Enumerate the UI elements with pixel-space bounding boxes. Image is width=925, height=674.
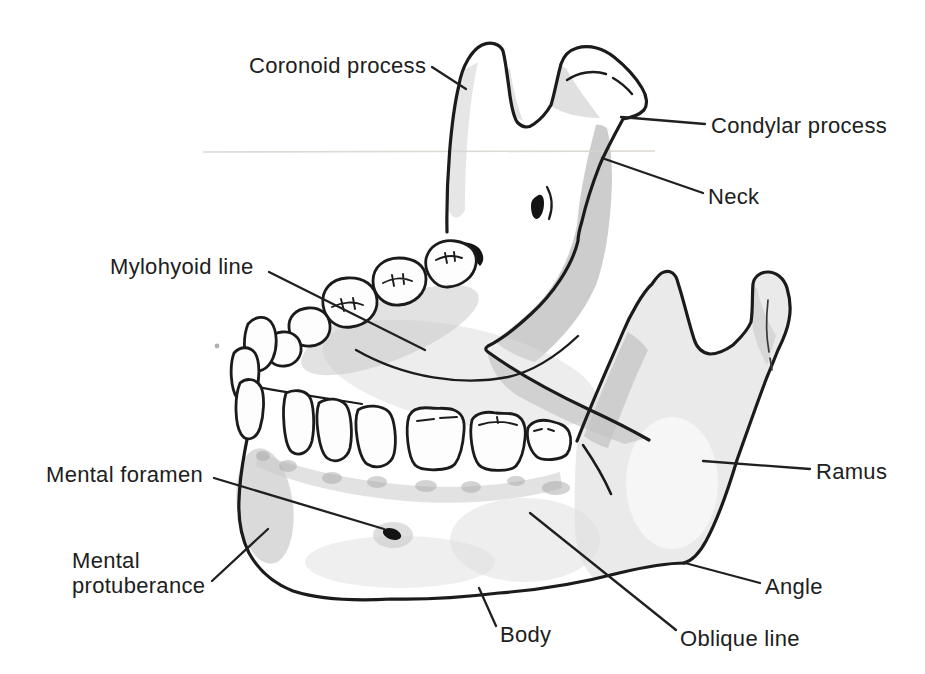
textbook-figure-page: Coronoid process Condylar process Neck M… — [0, 0, 925, 674]
near-ramus-inner-shade — [494, 125, 612, 362]
tooth-molar3-right — [527, 420, 570, 459]
tooth-premolar-right — [356, 406, 395, 467]
leader-neck — [602, 158, 703, 193]
scan-speck — [215, 344, 220, 349]
leader-condylar-process — [621, 117, 705, 124]
tooth-molar3-left — [426, 241, 477, 287]
mandibular-foramen-arc — [547, 187, 551, 219]
body-right-shade — [450, 498, 600, 582]
label-mental-foramen: Mental foramen — [46, 462, 203, 487]
label-neck: Neck — [708, 184, 759, 209]
label-body: Body — [500, 622, 551, 647]
scan-artifact-line — [203, 151, 655, 152]
label-condylar-process: Condylar process — [711, 113, 887, 138]
tooth-incisor2 — [236, 380, 264, 439]
tooth-incisor3 — [284, 391, 314, 455]
tooth-molar2-left — [373, 258, 426, 305]
tooth-canine-right — [317, 399, 351, 461]
mandibular-foramen-mark — [531, 195, 544, 219]
near-ramus-left-shade — [449, 62, 478, 218]
label-angle: Angle — [765, 574, 823, 599]
label-mental-protuberance: Mental protuberance — [72, 548, 227, 598]
label-ramus: Ramus — [816, 459, 887, 484]
label-oblique-line: Oblique line — [680, 626, 800, 651]
leader-angle — [685, 563, 760, 583]
label-coronoid-process: Coronoid process — [249, 53, 426, 78]
label-mylohyoid-line: Mylohyoid line — [110, 254, 254, 279]
